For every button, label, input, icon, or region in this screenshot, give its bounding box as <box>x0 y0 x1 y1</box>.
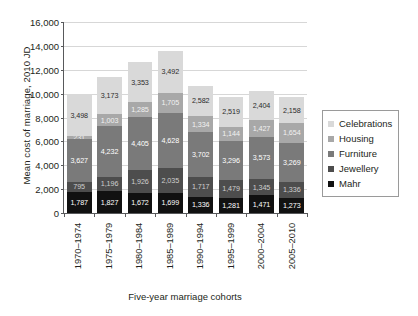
x-axis-label-slot: 2000–2004 <box>249 216 274 282</box>
bar-segment-jewellery[interactable]: 795 <box>67 182 92 191</box>
bar-segment-celebrations[interactable]: 3,353 <box>128 62 153 102</box>
bar-segment-mahr[interactable]: 1,273 <box>279 198 304 213</box>
bar-segment-value: 1,345 <box>253 184 271 191</box>
bar-segment-value: 795 <box>73 183 85 190</box>
x-axis-labels: 1970–19741975–19791980–19841985–19891990… <box>63 216 307 282</box>
y-axis-tick-label: 4,000 <box>35 160 64 171</box>
bar-segment-value: 3,573 <box>253 154 271 161</box>
bar-segment-value: 3,702 <box>192 151 210 158</box>
bar-segment-furniture[interactable]: 3,573 <box>249 137 274 180</box>
bar-segment-value: 3,627 <box>70 157 88 164</box>
bar-stack[interactable]: 3,4982313,6277951,787 <box>67 22 92 213</box>
bar-segment-celebrations[interactable]: 3,173 <box>97 77 122 115</box>
legend-swatch-icon <box>328 151 334 157</box>
legend-swatch-icon <box>328 181 334 187</box>
bar-segment-value: 1,827 <box>101 199 119 206</box>
bar-segment-mahr[interactable]: 1,471 <box>249 195 274 213</box>
bar-segment-celebrations[interactable]: 2,158 <box>279 97 304 123</box>
x-axis-tick-label: 1970–1974 <box>73 223 83 270</box>
bar-segment-celebrations[interactable]: 2,519 <box>219 97 244 127</box>
legend-item-furniture[interactable]: Furniture <box>328 146 392 161</box>
bar-stack[interactable]: 2,5191,1443,2961,4791,281 <box>219 22 244 213</box>
bar-segment-value: 1,705 <box>162 99 180 106</box>
bar-segment-mahr[interactable]: 1,787 <box>67 192 92 213</box>
x-axis-tick-label: 1995–1999 <box>226 223 236 270</box>
bar-segment-housing[interactable]: 1,427 <box>249 120 274 137</box>
bar-stack[interactable]: 3,4921,7054,6282,0351,699 <box>158 22 183 213</box>
bar-segment-celebrations[interactable]: 2,582 <box>188 86 213 117</box>
bar-stack[interactable]: 2,5821,3343,7021,7171,336 <box>188 22 213 213</box>
bar-segment-value: 1,699 <box>162 199 180 206</box>
y-axis-tick-label: 6,000 <box>35 136 64 147</box>
bar-segment-furniture[interactable]: 4,628 <box>158 113 183 168</box>
bar-segment-jewellery[interactable]: 1,717 <box>188 177 213 197</box>
y-axis-tick-label: 14,000 <box>30 40 64 51</box>
bar-segment-mahr[interactable]: 1,281 <box>219 198 244 213</box>
bar-segment-value: 1,471 <box>253 201 271 208</box>
bar-segment-value: 3,498 <box>70 112 88 119</box>
bar-segment-housing[interactable]: 1,144 <box>219 127 244 141</box>
bar-segment-value: 1,926 <box>131 178 149 185</box>
bar-segment-value: 1,427 <box>253 125 271 132</box>
x-axis-label-slot: 1980–1984 <box>127 216 152 282</box>
bar-segment-celebrations[interactable]: 3,498 <box>67 94 92 136</box>
legend-item-housing[interactable]: Housing <box>328 131 392 146</box>
bar-segment-celebrations[interactable]: 3,492 <box>158 51 183 93</box>
bar-segment-value: 1,281 <box>222 202 240 209</box>
bar-segment-furniture[interactable]: 4,405 <box>128 117 153 170</box>
bar-segment-housing[interactable]: 1,285 <box>128 102 153 117</box>
bar-segment-furniture[interactable]: 3,702 <box>188 132 213 176</box>
bar-segment-housing[interactable]: 1,705 <box>158 93 183 113</box>
bar-segment-value: 1,273 <box>283 202 301 209</box>
bar-segment-value: 2,404 <box>253 102 271 109</box>
legend-item-celebrations[interactable]: Celebrations <box>328 116 392 131</box>
legend-item-jewellery[interactable]: Jewellery <box>328 161 392 176</box>
bar-segment-value: 1,672 <box>131 199 149 206</box>
bar-segment-value: 1,334 <box>192 121 210 128</box>
bar-segment-value: 1,717 <box>192 183 210 190</box>
bar-segment-furniture[interactable]: 3,627 <box>67 139 92 182</box>
bar-segment-value: 3,269 <box>283 159 301 166</box>
bar-stack[interactable]: 2,4041,4273,5731,3451,471 <box>249 22 274 213</box>
bar-segment-furniture[interactable]: 3,296 <box>219 141 244 180</box>
x-axis-title: Five-year marriage cohorts <box>63 291 307 302</box>
bar-segment-value: 3,173 <box>101 92 119 99</box>
x-axis-tick-label: 1990–1994 <box>195 223 205 270</box>
bar-segment-mahr[interactable]: 1,699 <box>158 193 183 213</box>
bar-segment-furniture[interactable]: 4,232 <box>97 126 122 177</box>
bar-segment-value: 4,232 <box>101 148 119 155</box>
x-axis-tick-label: 1985–1989 <box>165 223 175 270</box>
chart-legend: CelebrationsHousingFurnitureJewelleryMah… <box>322 110 399 197</box>
legend-swatch-icon <box>328 166 334 172</box>
x-axis-tick-label: 2000–2004 <box>256 223 266 270</box>
bar-stack[interactable]: 3,3531,2854,4051,9261,672 <box>128 22 153 213</box>
y-axis-tick-label: 16,000 <box>30 17 64 28</box>
bar-segment-jewellery[interactable]: 2,035 <box>158 168 183 192</box>
bar-segment-housing[interactable]: 1,003 <box>97 114 122 126</box>
bar-segment-jewellery[interactable]: 1,345 <box>249 179 274 195</box>
bar-segment-mahr[interactable]: 1,336 <box>188 197 213 213</box>
bar-segment-housing[interactable]: 1,334 <box>188 116 213 132</box>
bar-segment-mahr[interactable]: 1,827 <box>97 191 122 213</box>
bar-stack[interactable]: 3,1731,0034,2321,1961,827 <box>97 22 122 213</box>
chart-figure: Mean cost of marriage, 2010 JD 16,00014,… <box>0 0 418 316</box>
bar-segment-mahr[interactable]: 1,672 <box>128 193 153 213</box>
legend-label: Mahr <box>339 178 361 189</box>
x-axis-label-slot: 1970–1974 <box>66 216 91 282</box>
bar-segment-value: 3,353 <box>131 79 149 86</box>
bar-segment-furniture[interactable]: 3,269 <box>279 143 304 182</box>
legend-item-mahr[interactable]: Mahr <box>328 176 392 191</box>
x-axis-label-slot: 1985–1989 <box>157 216 182 282</box>
legend-label: Celebrations <box>339 118 392 129</box>
bar-segment-celebrations[interactable]: 2,404 <box>249 91 274 120</box>
bar-segment-jewellery[interactable]: 1,479 <box>219 180 244 198</box>
bar-segment-jewellery[interactable]: 1,336 <box>279 182 304 198</box>
bar-segment-jewellery[interactable]: 1,926 <box>128 170 153 193</box>
bar-stack[interactable]: 2,1581,6543,2691,3361,273 <box>279 22 304 213</box>
bar-segment-value: 1,654 <box>283 129 301 136</box>
bar-segment-housing[interactable]: 1,654 <box>279 123 304 143</box>
x-axis-tick-label: 1975–1979 <box>104 223 114 270</box>
y-axis-tick-label: 2,000 <box>35 184 64 195</box>
bar-segment-jewellery[interactable]: 1,196 <box>97 177 122 191</box>
x-axis-label-slot: 1990–1994 <box>188 216 213 282</box>
